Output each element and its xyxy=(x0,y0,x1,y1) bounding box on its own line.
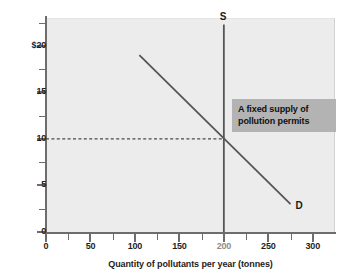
callout-line-1: A fixed supply of xyxy=(238,103,331,115)
y-tick-label: 0 xyxy=(6,226,46,236)
x-tick-label: 200 xyxy=(204,241,244,251)
x-tick-label: 100 xyxy=(115,241,155,251)
y-tick-label: 10 xyxy=(6,133,46,143)
x-tick-label: 0 xyxy=(26,241,66,251)
x-tick xyxy=(68,234,69,240)
y-tick xyxy=(39,116,46,117)
x-tick-label: 150 xyxy=(159,241,199,251)
y-tick xyxy=(39,162,46,163)
x-tick xyxy=(202,234,203,240)
y-tick xyxy=(39,23,46,24)
x-tick xyxy=(246,234,247,240)
x-tick xyxy=(113,234,114,240)
x-tick xyxy=(291,234,292,240)
y-tick xyxy=(39,69,46,70)
y-tick-label: $20 xyxy=(6,40,46,50)
supply-curve-label: S xyxy=(220,11,227,22)
fixed-supply-callout: A fixed supply of pollution permits xyxy=(232,99,336,132)
x-tick-label: 250 xyxy=(248,241,288,251)
x-tick-label: 50 xyxy=(70,241,110,251)
x-tick-label: 300 xyxy=(293,241,333,251)
y-tick-label: 5 xyxy=(6,179,46,189)
supply-demand-chart: 051015$20 050100150200250300 S D A fixed… xyxy=(0,0,358,280)
y-tick-label: 15 xyxy=(6,86,46,96)
x-tick xyxy=(157,234,158,240)
x-axis-title: Quantity of pollutants per year (tonnes) xyxy=(46,259,335,269)
y-tick xyxy=(39,209,46,210)
demand-curve-label: D xyxy=(296,200,303,211)
callout-line-2: pollution permits xyxy=(238,115,331,127)
